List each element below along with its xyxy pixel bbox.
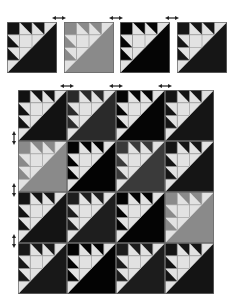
quilt-block — [67, 192, 116, 243]
quilt-block — [18, 90, 67, 141]
quilt-block — [116, 90, 165, 141]
quilt-block — [116, 243, 165, 294]
double-arrow-vertical-icon — [12, 183, 16, 197]
basket-block-variation-1 — [7, 22, 57, 73]
basket-block-variation-2 — [64, 22, 114, 73]
quilt-block — [165, 141, 214, 192]
quilt-block — [18, 243, 67, 294]
quilt-block — [67, 90, 116, 141]
quilt-block — [165, 192, 214, 243]
double-arrow-horizontal-icon — [52, 16, 66, 20]
quilt-block — [18, 192, 67, 243]
quilt-block — [116, 141, 165, 192]
quilt-block — [67, 141, 116, 192]
quilt-block — [67, 243, 116, 294]
basket-block-variation-4 — [177, 22, 227, 73]
double-arrow-horizontal-icon — [158, 84, 172, 88]
basket-block-variation-3 — [120, 22, 170, 73]
double-arrow-horizontal-icon — [109, 84, 123, 88]
double-arrow-vertical-icon — [12, 131, 16, 145]
quilt-block — [165, 90, 214, 141]
double-arrow-vertical-icon — [12, 234, 16, 248]
quilt-block — [116, 192, 165, 243]
double-arrow-horizontal-icon — [60, 84, 74, 88]
quilt-block — [165, 243, 214, 294]
double-arrow-horizontal-icon — [109, 16, 123, 20]
quilt-block — [18, 141, 67, 192]
double-arrow-horizontal-icon — [165, 16, 179, 20]
